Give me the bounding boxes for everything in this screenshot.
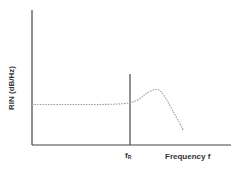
y-axis-label: RIN (dB/Hz) [4,58,18,118]
fr-subscript: R [128,154,132,160]
x-axis-label: Frequency f [165,152,210,161]
rin-curve [32,89,183,130]
y-axis-label-text: RIN (dB/Hz) [7,66,16,110]
resonance-frequency-label: fR [125,151,131,160]
rin-spectrum-chart [0,0,241,170]
